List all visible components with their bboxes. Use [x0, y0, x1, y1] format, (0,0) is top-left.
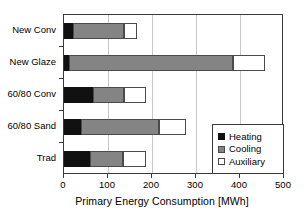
legend: HeatingCoolingAuxiliary: [212, 124, 284, 174]
y-axis-tick: [59, 142, 63, 143]
white-square-icon: [218, 158, 225, 165]
bar-segment-cooling: [93, 87, 124, 103]
legend-label-cooling: Cooling: [229, 144, 261, 154]
x-axis-title-text: Primary Energy Consumption [MWh]: [75, 195, 249, 207]
bar-segment-cooling: [81, 119, 159, 135]
bar-segment-cooling: [73, 23, 124, 39]
gridline-200: [152, 15, 153, 173]
y-axis-label-trad: Trad: [0, 153, 56, 163]
x-axis-tick-label-0: 0: [60, 179, 65, 190]
bar-segment-cooling: [69, 55, 233, 71]
bar-segment-heating: [64, 119, 81, 135]
y-axis-tick: [59, 78, 63, 79]
gray-square-icon: [218, 146, 225, 153]
bar-stack: [64, 151, 146, 167]
bar-segment-auxiliary: [124, 87, 146, 103]
x-axis-title: Primary Energy Consumption [MWh]: [0, 195, 304, 207]
gridline-300: [196, 15, 197, 173]
y-axis-label-new-glaze: New Glaze: [0, 57, 56, 67]
x-axis-tick-label-300: 300: [187, 179, 203, 190]
y-axis-label-new-conv: New Conv: [0, 25, 56, 35]
x-axis-tick-label-500: 500: [275, 179, 291, 190]
energy-consumption-bar-chart: New ConvNew Glaze60/80 Conv60/80 SandTra…: [0, 0, 304, 224]
x-axis-tick-400: [239, 174, 240, 178]
bar-stack: [64, 119, 186, 135]
x-axis-tick-300: [195, 174, 196, 178]
legend-item-heating: Heating: [218, 132, 279, 142]
bar-segment-auxiliary: [159, 119, 186, 135]
y-axis-label-60-80-conv: 60/80 Conv: [0, 89, 56, 99]
bar-segment-auxiliary: [233, 55, 265, 71]
bar-segment-heating: [64, 23, 73, 39]
y-axis-tick: [59, 110, 63, 111]
bar-segment-heating: [64, 151, 90, 167]
x-axis-tick-100: [107, 174, 108, 178]
bar-segment-cooling: [90, 151, 123, 167]
x-axis-tick-0: [63, 174, 64, 178]
x-axis-tick-label-200: 200: [143, 179, 159, 190]
x-axis-tick-200: [151, 174, 152, 178]
bar-segment-auxiliary: [124, 23, 138, 39]
legend-label-heating: Heating: [229, 132, 262, 142]
bar-segment-heating: [64, 87, 93, 103]
x-axis-tick-label-400: 400: [231, 179, 247, 190]
x-axis-tick-label-100: 100: [99, 179, 115, 190]
bar-stack: [64, 23, 137, 39]
x-axis-tick-500: [283, 174, 284, 178]
bar-stack: [64, 55, 265, 71]
y-axis-label-60-80-sand: 60/80 Sand: [0, 121, 56, 131]
bar-segment-auxiliary: [123, 151, 146, 167]
bar-stack: [64, 87, 146, 103]
legend-label-auxiliary: Auxiliary: [229, 157, 265, 167]
legend-item-auxiliary: Auxiliary: [218, 157, 279, 167]
black-square-icon: [218, 133, 225, 140]
legend-item-cooling: Cooling: [218, 144, 279, 154]
y-axis-tick: [59, 46, 63, 47]
